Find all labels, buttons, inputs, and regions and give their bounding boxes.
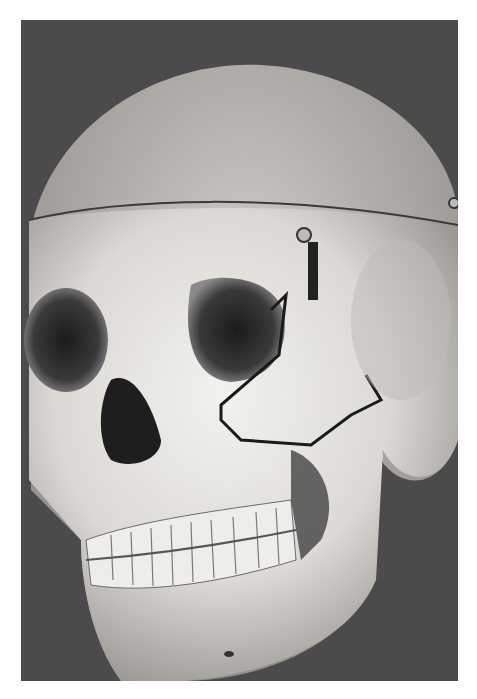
edge-screw [449,198,458,208]
hinge-screw [297,228,311,242]
skull-illustration [21,20,458,681]
spring-hinge [308,242,318,300]
skull-photograph: Skull with marked orbital and zygomatic … [21,20,458,681]
left-orbit [24,288,108,392]
